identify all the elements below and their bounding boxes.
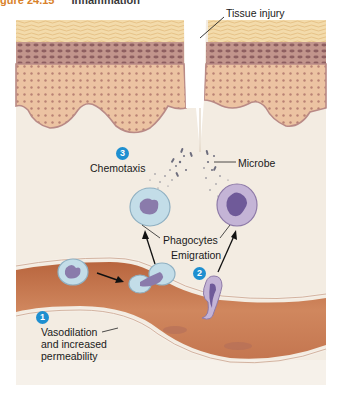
phagocyte-in-vessel <box>58 259 88 285</box>
label-chemotaxis: Chemotaxis <box>90 162 145 174</box>
label-vasodilation: Vasodilation and increased permeability <box>41 326 107 362</box>
inflammation-diagram: gure 24.15 Inflammation <box>0 0 338 397</box>
step-badge-3: 3 <box>116 147 129 160</box>
label-phagocytes: Phagocytes <box>163 234 218 246</box>
label-tissue-injury: Tissue injury <box>226 7 285 19</box>
phagocyte-left <box>130 188 170 226</box>
step-badge-2: 2 <box>193 267 206 280</box>
label-emigration: Emigration <box>171 249 221 261</box>
phagocyte-right <box>217 184 257 226</box>
step-badge-1: 1 <box>36 311 49 324</box>
label-microbe: Microbe <box>238 157 275 169</box>
